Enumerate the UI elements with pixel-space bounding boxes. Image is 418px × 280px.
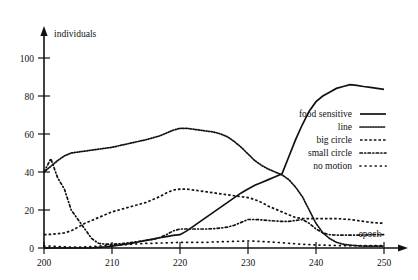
legend-label-no-motion: no motion <box>313 161 352 171</box>
y-axis-title: individuals <box>54 29 97 39</box>
legend-label-food-sensitive: food sensitive <box>299 109 352 119</box>
legend-label-small-circle: small circle <box>308 148 352 158</box>
y-axis-arrowhead <box>40 26 47 36</box>
y-tick-labels: 0 20 40 60 80 100 <box>20 54 35 254</box>
x-tick-label-200: 200 <box>37 258 52 268</box>
x-axis-arrowhead <box>398 244 408 251</box>
legend-label-big-circle: big circle <box>316 135 352 145</box>
axes-group <box>40 26 408 252</box>
x-tick-label-230: 230 <box>241 258 256 268</box>
x-tick-label-240: 240 <box>309 258 324 268</box>
x-tick-label-210: 210 <box>105 258 120 268</box>
series-small-circle <box>44 159 384 245</box>
y-tick-label-60: 60 <box>25 130 35 140</box>
y-tick-label-20: 20 <box>25 206 35 216</box>
x-tick-label-220: 220 <box>173 258 188 268</box>
chart-figure: 0 20 40 60 80 100 200 210 220 230 240 25… <box>0 0 418 280</box>
y-tick-label-40: 40 <box>25 168 35 178</box>
legend-label-line: line <box>338 122 352 132</box>
legend: food sensitive line big circle small cir… <box>299 109 386 171</box>
y-tick-label-0: 0 <box>29 244 34 254</box>
x-tick-label-250: 250 <box>377 258 392 268</box>
y-tick-label-80: 80 <box>25 92 35 102</box>
x-tick-labels: 200 210 220 230 240 250 <box>37 258 392 268</box>
chart-canvas: 0 20 40 60 80 100 200 210 220 230 240 25… <box>0 0 418 280</box>
y-tick-label-100: 100 <box>20 54 35 64</box>
